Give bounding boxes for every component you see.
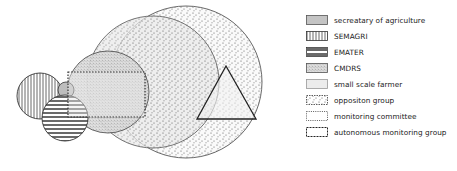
legend-item-cmdrs: CMDRS [306, 60, 447, 76]
legend-label: SEMAGRI [334, 32, 368, 41]
stipple-swatch-icon [306, 63, 328, 73]
monitoring-committee-rect [68, 72, 145, 117]
legend-item-opposition-group: oppositon group [306, 92, 447, 108]
vertical-stripes-swatch-icon [306, 31, 328, 41]
legend: secreatary of agriculture SEMAGRI EMATER… [306, 12, 447, 140]
dots-swatch-icon [306, 95, 328, 105]
venn-diagram [0, 0, 300, 171]
legend-item-small-scale-farmer: small scale farmer [306, 76, 447, 92]
horizontal-stripes-swatch-icon [306, 47, 328, 57]
legend-label: CMDRS [334, 64, 361, 73]
legend-label: monitoring committee [334, 112, 417, 121]
legend-item-monitoring-committee: monitoring committee [306, 108, 447, 124]
legend-label: small scale farmer [334, 80, 402, 89]
legend-label: EMATER [334, 48, 364, 57]
dashed-outline-swatch-icon [306, 127, 328, 137]
legend-label: autonomous monitoring group [334, 128, 447, 137]
solid-gray-swatch-icon [306, 15, 328, 25]
legend-item-secretary: secreatary of agriculture [306, 12, 447, 28]
legend-item-semagri: SEMAGRI [306, 28, 447, 44]
legend-label: secreatary of agriculture [334, 16, 425, 25]
legend-label: oppositon group [334, 96, 394, 105]
light-gray-swatch-icon [306, 79, 328, 89]
legend-item-emater: EMATER [306, 44, 447, 60]
legend-item-autonomous-monitoring-group: autonomous monitoring group [306, 124, 447, 140]
dotted-outline-swatch-icon [306, 111, 328, 121]
